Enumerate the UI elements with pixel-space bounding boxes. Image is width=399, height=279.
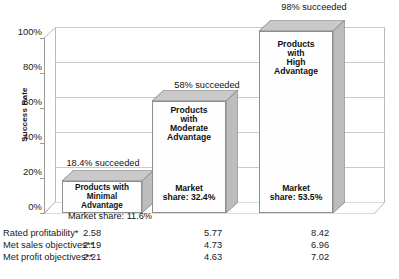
bar-moderate-line4: Advantage [152, 133, 226, 143]
stats-table: Rated profitability* 2.58 5.77 8.42 Met … [0, 227, 399, 267]
table-cell-rated-profitability-minimal: 2.58 [83, 227, 143, 239]
data-label-high: 98% succeeded [259, 2, 369, 12]
bar-moderate[interactable]: Products with Moderate Advantage Market … [152, 90, 226, 213]
y-tick-label-40: 40% [6, 132, 42, 142]
table-cell-met-sales-moderate: 4.73 [204, 239, 264, 251]
y-tickmark-20 [40, 178, 44, 179]
y-tickmark-40 [40, 143, 44, 144]
market-share-minimal: Market share: 11.6% [40, 211, 180, 221]
bar-minimal-line1: Products with [62, 183, 142, 192]
bar-minimal-line3: Advantage [62, 201, 142, 210]
y-axis-ticks: 100% 80% 60% 40% 20% 0% [0, 0, 42, 222]
bar-high-line4: Advantage [259, 67, 333, 77]
table-cell-met-profit-minimal: 2.21 [83, 251, 143, 263]
bar-minimal[interactable]: Products with Minimal Advantage [62, 170, 142, 213]
bar-high[interactable]: Products with High Advantage Market shar… [259, 20, 333, 213]
table-cell-met-profit-moderate: 4.63 [204, 251, 264, 263]
table-cell-met-profit-high: 7.02 [311, 251, 371, 263]
table-cell-rated-profitability-high: 8.42 [311, 227, 371, 239]
chart-plot-area: Success Rate 100% 80% 60% 40% 20% 0% [0, 0, 399, 222]
y-axis-line [44, 38, 45, 213]
table-row: Met profit objectives** 2.21 4.63 7.02 [0, 251, 399, 263]
y-tick-label-20: 20% [6, 167, 42, 177]
bar-high-share-line2: share: 53.5% [259, 193, 333, 203]
y-tick-label-100: 100% [6, 27, 42, 37]
y-tickmark-80 [40, 73, 44, 74]
table-cell-rated-profitability-moderate: 5.77 [204, 227, 264, 239]
y-tickmark-60 [40, 108, 44, 109]
y-tick-label-60: 60% [6, 97, 42, 107]
table-cell-met-sales-high: 6.96 [311, 239, 371, 251]
bar-moderate-share-line2: share: 32.4% [152, 193, 226, 203]
table-cell-met-sales-minimal: 2.19 [83, 239, 143, 251]
table-row: Rated profitability* 2.58 5.77 8.42 [0, 227, 399, 239]
data-label-moderate: 58% succeeded [152, 80, 262, 90]
y-tick-label-80: 80% [6, 62, 42, 72]
plot-box: Products with Minimal Advantage Products… [44, 27, 385, 213]
table-row: Met sales objectives** 2.19 4.73 6.96 [0, 239, 399, 251]
data-label-minimal: 18.4% succeeded [48, 158, 158, 168]
chart-root: Success Rate 100% 80% 60% 40% 20% 0% [0, 0, 399, 279]
y-tick-label-0: 0% [6, 202, 42, 212]
bar-minimal-line2: Minimal [62, 192, 142, 201]
y-tickmark-100 [40, 38, 44, 39]
